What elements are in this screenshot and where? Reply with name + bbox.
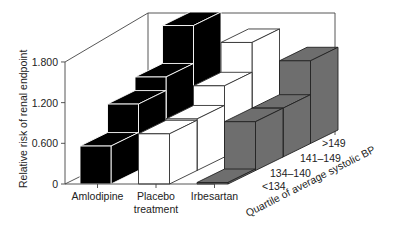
bar <box>139 120 198 184</box>
category-label: Irbesartan <box>191 190 238 202</box>
category-label: treatment <box>134 203 178 215</box>
y-tick-label: 0 <box>52 178 58 190</box>
bar <box>225 108 284 170</box>
bar <box>80 133 139 184</box>
bar <box>197 169 256 184</box>
category-label: Amlodipine <box>72 190 124 202</box>
3d-bar-chart: 00.6001.2001.800AmlodipinePlacebotreatme… <box>0 0 394 229</box>
category-label: Placebo <box>137 190 175 202</box>
depth-tick-label: >149 <box>322 137 346 149</box>
y-axis-label: Relative risk of renal endpoint <box>17 50 29 188</box>
y-tick-label: 1.800 <box>32 56 58 68</box>
y-tick-label: 0.600 <box>32 137 58 149</box>
y-tick-label: 1.200 <box>32 97 58 109</box>
